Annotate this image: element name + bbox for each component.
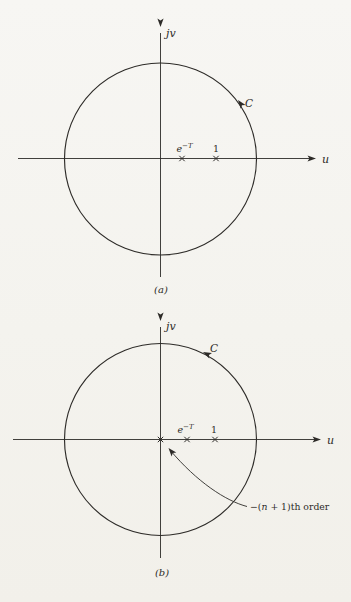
u-axis-label-a: u	[322, 153, 329, 166]
figure-canvas: u jv C e−T 1 (a) u jv	[0, 0, 351, 602]
origin-note-label: −(n + 1)th order	[250, 501, 330, 512]
caption-a: (a)	[154, 284, 168, 295]
jv-axis-arrowhead-b	[157, 313, 163, 322]
figure-page: u jv C e−T 1 (a) u jv	[0, 0, 351, 602]
jv-axis-label-a: jv	[163, 27, 176, 40]
origin-note-pointer-line	[170, 450, 247, 507]
pole-label-1-a: 1	[213, 143, 219, 154]
pole-label-eT-a: e−T	[176, 142, 193, 154]
diagram-a: u jv C e−T 1 (a)	[18, 19, 329, 295]
jv-axis-label-b: jv	[163, 320, 176, 333]
contour-label-b: C	[210, 342, 218, 354]
pole-label-eT-b: e−T	[177, 423, 194, 435]
contour-label-a: C	[245, 97, 253, 109]
caption-b: (b)	[155, 567, 169, 578]
jv-axis-arrowhead-a	[157, 19, 163, 28]
pole-label-1-b: 1	[211, 424, 217, 435]
u-axis-label-b: u	[327, 434, 334, 447]
diagram-b: u jv C e−T 1 −(n + 1)th order (b)	[13, 313, 334, 578]
